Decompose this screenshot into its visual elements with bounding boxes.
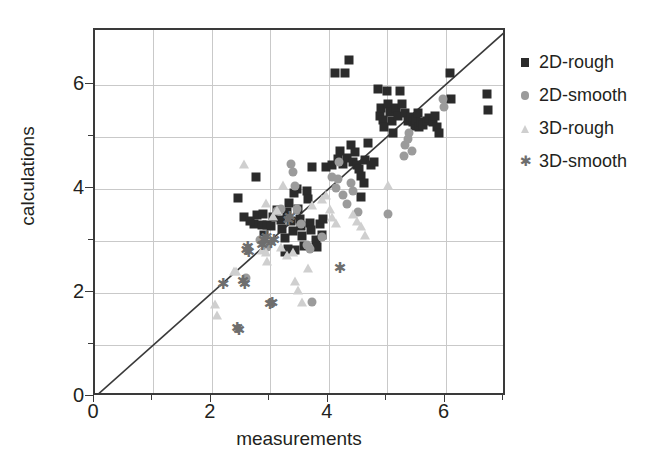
data-point-3d-smooth: ✱ [284, 212, 295, 223]
data-point-3d-smooth: ✱ [256, 239, 267, 250]
y-tick [85, 291, 93, 292]
data-point-3d-smooth: ✱ [217, 278, 228, 289]
data-point-2d-rough [413, 109, 422, 118]
data-point-3d-rough [288, 248, 298, 257]
y-tick-minor [88, 239, 93, 240]
data-point-2d-rough [431, 111, 440, 120]
data-point-2d-rough [259, 209, 268, 218]
data-point-2d-rough [482, 90, 491, 99]
data-point-2d-smooth [288, 168, 297, 177]
data-point-3d-rough [325, 204, 335, 213]
data-point-2d-rough [396, 86, 405, 95]
data-point-2d-rough [359, 178, 368, 187]
data-point-2d-rough [374, 84, 383, 93]
data-point-2d-smooth [346, 178, 355, 187]
data-point-2d-rough [351, 148, 360, 157]
data-point-2d-rough [245, 217, 254, 226]
data-point-2d-rough [447, 95, 456, 104]
data-point-2d-rough [234, 194, 243, 203]
data-point-2d-rough [364, 138, 373, 147]
data-point-3d-smooth: ✱ [334, 262, 345, 273]
data-point-3d-rough [210, 300, 220, 309]
data-point-3d-rough [303, 263, 313, 272]
data-point-2d-smooth [349, 187, 358, 196]
data-point-3d-rough [297, 298, 307, 307]
data-point-2d-smooth [343, 200, 352, 209]
data-point-2d-rough [330, 69, 339, 78]
data-point-2d-rough [446, 69, 455, 78]
data-point-3d-smooth: ✱ [266, 298, 277, 309]
data-point-3d-rough [278, 180, 288, 189]
data-point-2d-smooth [306, 244, 315, 253]
data-point-3d-smooth: ✱ [268, 234, 279, 245]
y-tick [85, 395, 93, 396]
data-point-2d-smooth [405, 128, 414, 137]
legend-label: 3D-rough [539, 118, 614, 139]
legend-item-2d-smooth[interactable]: 2D-smooth [518, 79, 658, 112]
plot-frame: ✱✱✱✱✱✱✱✱✱✱✱✱✱✱✱✱✱✱ [93, 28, 505, 395]
x-tick-minor [151, 395, 152, 400]
data-point-2d-rough [341, 69, 350, 78]
data-point-3d-smooth: ✱ [233, 325, 244, 336]
data-point-3d-rough [290, 277, 300, 286]
legend-marker-circle-icon [518, 91, 532, 100]
legend-label: 2D-smooth [539, 85, 627, 106]
data-point-2d-rough [389, 128, 398, 137]
data-point-3d-rough [239, 159, 249, 168]
legend: 2D-rough2D-smooth3D-rough✱3D-smooth [518, 46, 658, 178]
data-point-2d-rough [356, 192, 365, 201]
data-point-2d-smooth [407, 147, 416, 156]
data-point-2d-rough [483, 105, 492, 114]
data-point-3d-rough [272, 205, 282, 214]
data-point-3d-rough [360, 230, 370, 239]
y-axis-title: calculations [17, 86, 39, 266]
data-point-2d-rough [251, 173, 260, 182]
x-tick-minor [385, 395, 386, 400]
data-point-2d-smooth [308, 298, 317, 307]
x-tick-label: 6 [438, 400, 449, 423]
data-point-2d-rough [298, 231, 307, 240]
data-point-2d-rough [308, 162, 317, 171]
legend-marker-triangle-icon [518, 125, 532, 133]
data-point-2d-smooth [333, 175, 342, 184]
data-point-2d-smooth [317, 232, 326, 241]
plot-area: ✱✱✱✱✱✱✱✱✱✱✱✱✱✱✱✱✱✱ [95, 30, 503, 393]
y-tick [85, 83, 93, 84]
legend-item-3d-rough[interactable]: 3D-rough [518, 112, 658, 145]
data-point-2d-rough [370, 157, 379, 166]
legend-marker-star-icon: ✱ [518, 156, 532, 166]
data-point-2d-rough [397, 100, 406, 109]
x-tick-label: 2 [204, 400, 215, 423]
data-point-2d-smooth [296, 220, 305, 229]
legend-item-2d-rough[interactable]: 2D-rough [518, 46, 658, 79]
data-point-3d-smooth: ✱ [243, 247, 254, 258]
data-point-3d-rough [293, 286, 303, 295]
data-point-3d-rough [262, 256, 272, 265]
data-point-2d-smooth [339, 191, 348, 200]
data-point-3d-rough [321, 191, 331, 200]
y-tick-label: 0 [73, 384, 84, 407]
data-point-3d-rough [212, 310, 222, 319]
data-point-2d-smooth [384, 209, 393, 218]
data-point-3d-rough [261, 199, 271, 208]
x-tick-minor [502, 395, 503, 400]
data-point-2d-smooth [440, 102, 449, 111]
y-tick-label: 6 [73, 71, 84, 94]
x-axis-title: measurements [93, 428, 505, 450]
legend-marker-square-icon [518, 58, 532, 67]
y-tick [85, 187, 93, 188]
data-point-2d-rough [345, 55, 354, 64]
y-tick-minor [88, 135, 93, 136]
legend-item-3d-smooth[interactable]: ✱3D-smooth [518, 145, 658, 178]
scatter-plot-figure: ✱✱✱✱✱✱✱✱✱✱✱✱✱✱✱✱✱✱ 02460246 measurements… [0, 0, 665, 465]
x-tick-label: 4 [321, 400, 332, 423]
x-tick-minor [268, 395, 269, 400]
data-point-3d-rough [383, 180, 393, 189]
data-point-2d-rough [434, 128, 443, 137]
y-tick-label: 2 [73, 279, 84, 302]
data-point-2d-smooth [290, 182, 299, 191]
data-point-3d-smooth: ✱ [239, 278, 250, 289]
legend-label: 2D-rough [539, 52, 614, 73]
data-point-2d-smooth [335, 157, 344, 166]
legend-label: 3D-smooth [539, 151, 627, 172]
